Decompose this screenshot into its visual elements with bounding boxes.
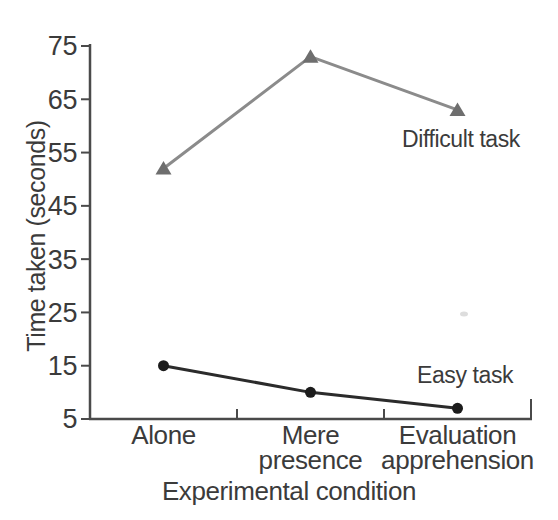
scan-speck: [460, 312, 468, 317]
chart-figure: 756555453525155AloneMerepresenceEvaluati…: [0, 0, 558, 520]
circle-marker-easy-task: [158, 360, 169, 371]
circle-marker-easy-task: [452, 403, 463, 414]
y-tick-label: 5: [62, 404, 77, 434]
y-tick-label: 15: [48, 351, 77, 381]
triangle-marker-difficult-task: [303, 49, 319, 63]
x-category-label-evaluation-apprehension: apprehension: [381, 445, 534, 475]
circle-marker-easy-task: [305, 387, 316, 398]
y-tick-label: 45: [48, 191, 77, 221]
y-tick-label: 75: [48, 31, 77, 61]
x-category-label-alone: Alone: [131, 420, 196, 450]
y-tick-label: 65: [48, 85, 77, 115]
line-chart: 756555453525155AloneMerepresenceEvaluati…: [0, 0, 558, 520]
y-tick-label: 25: [48, 298, 77, 328]
series-label-easy-task: Easy task: [417, 362, 514, 388]
y-tick-label: 55: [48, 138, 77, 168]
x-axis-title: Experimental condition: [162, 476, 416, 506]
x-category-label-mere-presence: presence: [259, 445, 363, 475]
y-axis-title: Time taken (seconds): [22, 120, 50, 351]
y-tick-label: 35: [48, 245, 77, 275]
series-label-difficult-task: Difficult task: [402, 126, 521, 152]
